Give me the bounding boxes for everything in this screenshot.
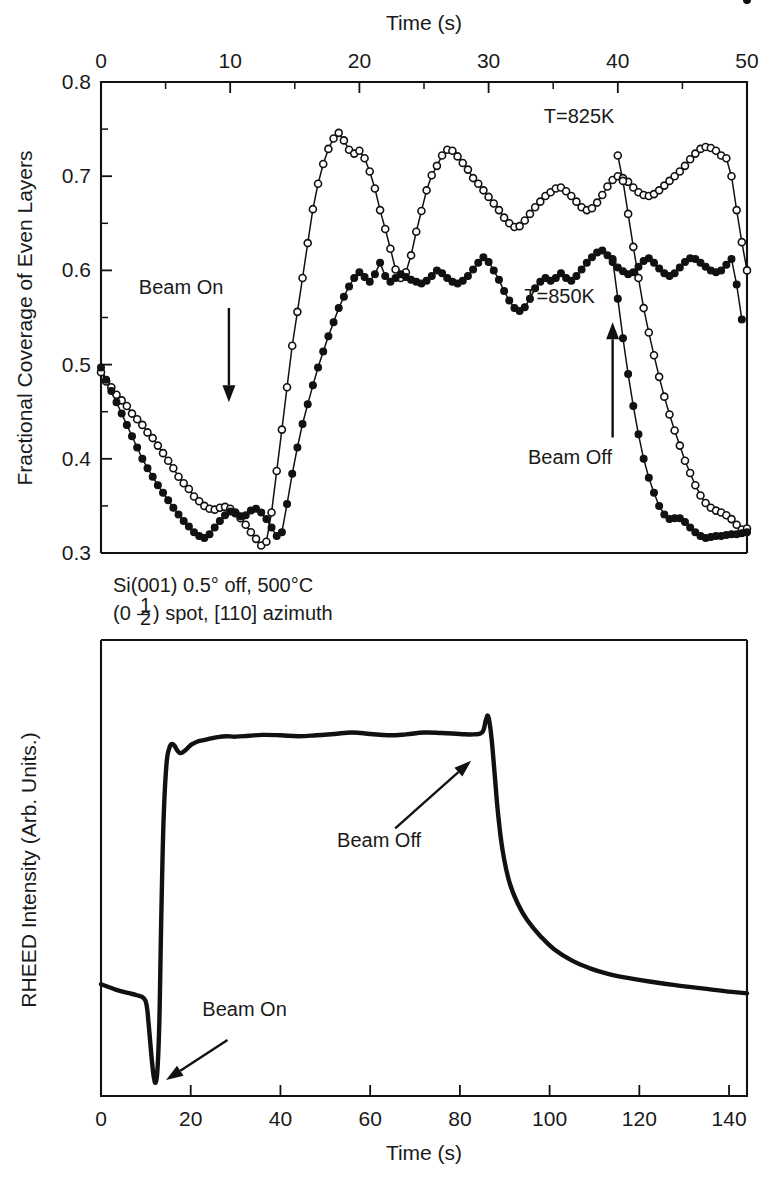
datapoint-open: [418, 208, 425, 215]
datapoint-filled: [330, 319, 337, 326]
datapoint-filled: [676, 264, 683, 271]
datapoint-open: [340, 137, 347, 144]
datapoint-filled: [351, 275, 358, 282]
datapoint-filled: [744, 0, 751, 3]
sample-line2-suffix: ) spot, [110] azimuth: [153, 602, 333, 624]
datapoint-open: [160, 450, 167, 457]
datapoint-filled: [625, 371, 632, 378]
datapoint-filled: [103, 376, 110, 383]
lower-arrow-beam-off-shaft: [395, 772, 458, 828]
datapoint-filled: [744, 529, 751, 536]
figure-container: Time (s) 01020304050 0.80.70.60.50.40.3 …: [0, 0, 778, 1180]
upper-annotations: Beam OnBeam OffT=825KT=850K: [139, 105, 619, 468]
datapoint-filled: [723, 261, 730, 268]
datapoint-open: [273, 468, 280, 475]
datapoint-filled: [573, 273, 580, 280]
datapoint-open: [335, 129, 342, 136]
datapoint-open: [666, 411, 673, 418]
upper-xticklabel: 20: [348, 49, 371, 72]
datapoint-open: [154, 442, 161, 449]
datapoint-filled: [366, 278, 373, 285]
lower-data-curve: [101, 716, 747, 1083]
datapoint-open: [723, 155, 730, 162]
datapoint-open: [604, 183, 611, 190]
datapoint-filled: [656, 503, 663, 510]
datapoint-filled: [578, 266, 585, 273]
datapoint-filled: [718, 267, 725, 274]
datapoint-filled: [635, 431, 642, 438]
datapoint-open: [676, 442, 683, 449]
datapoint-open: [625, 210, 632, 217]
datapoint-open: [185, 485, 192, 492]
rheed-intensity-curve: [101, 716, 747, 1083]
datapoint-filled: [160, 489, 167, 496]
datapoint-filled: [216, 518, 223, 525]
datapoint-open: [671, 427, 678, 434]
upper-yticklabel: 0.6: [62, 258, 91, 281]
upper-annotation-beam-off: Beam Off: [528, 446, 613, 468]
datapoint-open: [521, 217, 528, 224]
datapoint-filled: [165, 497, 172, 504]
upper-yticklabel: 0.3: [62, 541, 91, 564]
datapoint-open: [139, 421, 146, 428]
datapoint-filled: [475, 259, 482, 266]
datapoint-open: [170, 465, 177, 472]
datapoint-filled: [170, 504, 177, 511]
datapoint-open: [459, 160, 466, 167]
lower-xticklabel: 20: [179, 1107, 202, 1130]
lower-yaxis-title: RHEED Intensity (Arb. Units.): [17, 732, 40, 1007]
datapoint-open: [299, 274, 306, 281]
datapoint-filled: [263, 516, 270, 523]
datapoint-filled: [614, 295, 621, 302]
upper-annotation-t-850k: T=850K: [524, 285, 595, 307]
datapoint-open: [408, 252, 415, 259]
datapoint-filled: [506, 297, 513, 304]
datapoint-filled: [609, 256, 616, 263]
datapoint-filled: [134, 444, 141, 451]
datapoint-filled: [470, 266, 477, 273]
lower-xaxis-ticklabels: 020406080100120140: [95, 1107, 746, 1130]
datapoint-open: [304, 240, 311, 247]
datapoint-filled: [284, 501, 291, 508]
upper-xaxis-title: Time (s): [386, 11, 462, 34]
datapoint-filled: [299, 421, 306, 428]
datapoint-open: [594, 199, 601, 206]
datapoint-open: [635, 274, 642, 281]
datapoint-filled: [340, 293, 347, 300]
datapoint-open: [464, 166, 471, 173]
series-line-T-850K-tail: [613, 259, 747, 538]
datapoint-open: [377, 207, 384, 214]
lower-annotations: Beam OnBeam Off: [166, 761, 471, 1080]
datapoint-filled: [728, 256, 735, 263]
datapoint-open: [656, 373, 663, 380]
sample-line2-fraction-denominator: 2: [140, 607, 151, 629]
datapoint-filled: [620, 335, 627, 342]
datapoint-filled: [583, 259, 590, 266]
datapoint-open: [433, 162, 440, 169]
lower-arrow-beam-on-head: [166, 1066, 184, 1080]
datapoint-open: [284, 384, 291, 391]
datapoint-filled: [123, 421, 130, 428]
datapoint-open: [619, 177, 626, 184]
upper-yaxis-ticklabels: 0.80.70.60.50.40.3: [62, 70, 92, 564]
datapoint-filled: [346, 283, 353, 290]
datapoint-filled: [320, 348, 327, 355]
upper-yticklabel: 0.8: [62, 70, 91, 93]
upper-xticklabel: 40: [606, 49, 629, 72]
datapoint-open: [650, 352, 657, 359]
upper-yticklabel: 0.5: [62, 353, 91, 376]
datapoint-open: [325, 145, 332, 152]
lower-xticklabel: 120: [622, 1107, 657, 1130]
datapoint-open: [123, 403, 130, 410]
datapoint-filled: [129, 433, 136, 440]
datapoint-open: [361, 155, 368, 162]
upper-yaxis-title: Fractional Coverage of Even Layers: [13, 150, 36, 485]
datapoint-filled: [501, 288, 508, 295]
upper-arrow-beam-off-head: [606, 322, 619, 339]
sample-description-line1: Si(001) 0.5° off, 500°C: [113, 574, 313, 596]
datapoint-open: [480, 187, 487, 194]
datapoint-filled: [671, 270, 678, 277]
datapoint-filled: [180, 518, 187, 525]
lower-xticklabel: 80: [448, 1107, 471, 1130]
sample-description-line2: (0 1 2 ) spot, [110] azimuth: [113, 594, 333, 629]
